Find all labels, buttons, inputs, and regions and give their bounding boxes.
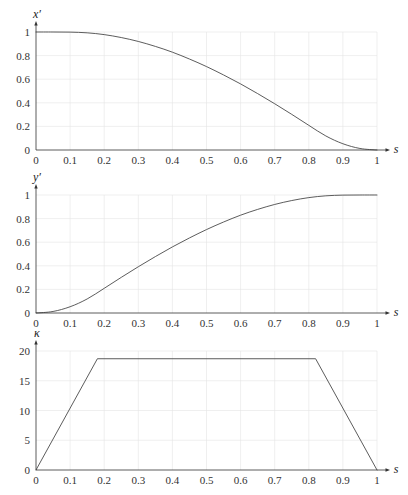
y-tick-label: 0.8 [16,213,30,225]
x-tick-label: 0 [33,154,39,166]
x-axis-arrow-icon [386,468,391,471]
grid [36,32,377,150]
y-axis-label: x′ [32,7,41,21]
axes [34,21,390,152]
x-tick-label: 0.3 [131,154,145,166]
grid [36,351,377,470]
x-tick-label: 0.2 [97,154,111,166]
x-tick-label: 0.7 [268,317,282,329]
x-tick-label: 0.6 [234,474,248,486]
x-tick-label: 0.6 [234,154,248,166]
y-tick-label: 0.6 [16,73,30,85]
tick-labels: 00.10.20.30.40.50.60.70.80.9105101520 [19,345,380,486]
x-tick-label: 0.8 [302,154,316,166]
x-tick-label: 0 [33,474,39,486]
y-axis-arrow-icon [34,21,37,26]
x-tick-label: 0.4 [166,474,180,486]
y-tick-label: 0.2 [16,283,30,295]
chart-y-prime: 00.10.20.30.40.50.60.70.80.9100.20.40.60… [16,170,398,329]
x-tick-label: 0.4 [166,154,180,166]
x-tick-label: 0.2 [97,474,111,486]
x-tick-label: 0.5 [200,474,214,486]
axes [34,340,390,472]
y-tick-label: 15 [19,375,31,387]
y-tick-label: 0.6 [16,236,30,248]
axes [34,184,390,315]
y-tick-label: 0 [25,464,31,476]
y-axis-label: κ [34,326,40,340]
x-tick-label: 0.9 [336,474,350,486]
x-tick-label: 0.7 [268,154,282,166]
x-tick-label: 0.7 [268,474,282,486]
x-axis-label: s [394,305,399,319]
x-tick-label: 0.8 [302,474,316,486]
tick-labels: 00.10.20.30.40.50.60.70.80.9100.20.40.60… [16,189,380,329]
y-tick-label: 0.2 [16,120,30,132]
x-axis-label: s [394,462,399,476]
y-axis-label: y′ [32,170,41,184]
figure: 00.10.20.30.40.50.60.70.80.9100.20.40.60… [0,0,408,495]
x-tick-label: 0.1 [63,317,77,329]
x-tick-label: 0.5 [200,154,214,166]
x-axis-arrow-icon [386,311,391,314]
x-tick-label: 0.4 [166,317,180,329]
chart-x-prime: 00.10.20.30.40.50.60.70.80.9100.20.40.60… [16,7,398,166]
y-axis-arrow-icon [34,184,37,189]
y-tick-label: 0 [25,307,31,319]
x-axis-label: s [394,142,399,156]
y-tick-label: 20 [19,345,31,357]
x-tick-label: 0.3 [131,474,145,486]
x-tick-label: 0.6 [234,317,248,329]
x-tick-label: 0.2 [97,317,111,329]
y-tick-label: 0.8 [16,50,30,62]
x-tick-label: 0.1 [63,154,77,166]
x-tick-label: 0.1 [63,474,77,486]
y-tick-label: 5 [25,434,31,446]
y-tick-label: 10 [19,405,31,417]
y-axis-arrow-icon [34,340,37,345]
x-tick-label: 0.8 [302,317,316,329]
y-tick-label: 0 [25,144,31,156]
x-tick-label: 1 [374,317,380,329]
x-tick-label: 0.3 [131,317,145,329]
grid [36,195,377,313]
y-tick-label: 1 [25,26,31,38]
x-axis-arrow-icon [386,148,391,151]
x-tick-label: 1 [374,474,380,486]
x-tick-label: 0.9 [336,154,350,166]
y-tick-label: 1 [25,189,31,201]
tick-labels: 00.10.20.30.40.50.60.70.80.9100.20.40.60… [16,26,380,166]
x-tick-label: 0.9 [336,317,350,329]
x-tick-label: 1 [374,154,380,166]
x-tick-label: 0.5 [200,317,214,329]
chart-kappa: 00.10.20.30.40.50.60.70.80.9105101520κs [19,326,399,486]
y-tick-label: 0.4 [16,260,30,272]
y-tick-label: 0.4 [16,97,30,109]
figure-canvas: 00.10.20.30.40.50.60.70.80.9100.20.40.60… [0,0,408,495]
